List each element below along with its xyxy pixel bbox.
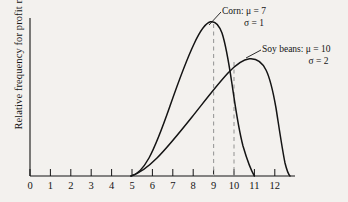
plot-area xyxy=(0,0,348,202)
annotation-corn-line2: σ = 1 xyxy=(222,18,266,30)
curve-soy-beans xyxy=(131,59,290,176)
annotation-soy-beans-line1: Soy beans: μ = 10 xyxy=(262,44,331,54)
annotation-corn: Corn: μ = 7 σ = 1 xyxy=(222,6,266,29)
annotation-soy-beans: Soy beans: μ = 10 σ = 2 xyxy=(262,44,331,67)
leader-line-soy-beans xyxy=(246,50,261,58)
x-tick-label-7: 7 xyxy=(165,180,181,191)
x-tick-label-2: 2 xyxy=(63,180,79,191)
x-tick-label-0: 0 xyxy=(22,180,38,191)
x-tick-label-9: 9 xyxy=(206,180,222,191)
x-tick-label-11: 11 xyxy=(246,180,262,191)
x-tick-label-12: 12 xyxy=(267,180,283,191)
x-tick-label-4: 4 xyxy=(104,180,120,191)
x-tick-label-3: 3 xyxy=(83,180,99,191)
x-tick-label-5: 5 xyxy=(124,180,140,191)
curve-corn xyxy=(131,22,254,176)
x-tick-label-8: 8 xyxy=(185,180,201,191)
x-axis-ticks xyxy=(30,169,275,176)
x-tick-label-6: 6 xyxy=(144,180,160,191)
figure-canvas: Relative frequency for profit margin xyxy=(0,0,348,202)
x-tick-label-1: 1 xyxy=(42,180,58,191)
annotation-soy-beans-line2: σ = 2 xyxy=(262,56,331,68)
x-tick-label-10: 10 xyxy=(226,180,242,191)
annotation-corn-line1: Corn: μ = 7 xyxy=(222,6,266,16)
